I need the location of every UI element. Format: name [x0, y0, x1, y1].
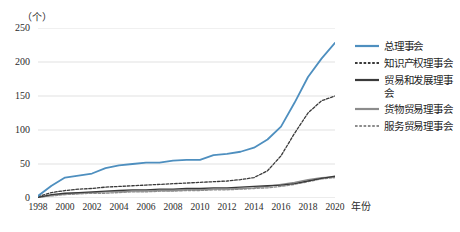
legend-item[interactable]: 贸易和发展理事会 [355, 74, 460, 100]
clipped-caption [0, 0, 460, 6]
legend-swatch-icon [355, 60, 379, 71]
chart-legend: 总理事会知识产权理事会贸易和发展理事会货物贸易理事会服务贸易理事会 [355, 40, 460, 137]
legend-item[interactable]: 货物贸易理事会 [355, 103, 460, 117]
y-axis-tick: 100 [0, 125, 30, 135]
legend-label: 服务贸易理事会 [384, 120, 453, 133]
legend-label: 货物贸易理事会 [384, 103, 453, 116]
x-axis-tick: 2020 [318, 202, 352, 212]
series-line [38, 43, 335, 196]
legend-label: 知识产权理事会 [384, 57, 453, 70]
legend-item[interactable]: 总理事会 [355, 40, 460, 54]
legend-swatch-icon [355, 77, 379, 88]
y-axis-tick: 50 [0, 159, 30, 169]
y-axis-tick: 150 [0, 91, 30, 101]
series-line [38, 178, 335, 198]
plot-area [38, 28, 335, 198]
legend-swatch-icon [355, 106, 379, 117]
y-axis-tick: 250 [0, 23, 30, 33]
y-axis-tick: 200 [0, 57, 30, 67]
line-chart: （个） 050100150200250 19982000200220042006… [0, 0, 460, 232]
legend-swatch-icon [355, 43, 379, 54]
legend-item[interactable]: 服务贸易理事会 [355, 120, 460, 134]
x-axis-title: 年份 [351, 201, 371, 212]
legend-label: 总理事会 [384, 40, 423, 53]
legend-item[interactable]: 知识产权理事会 [355, 57, 460, 71]
legend-label: 贸易和发展理事会 [384, 74, 460, 100]
plot-svg [38, 28, 335, 198]
legend-swatch-icon [355, 123, 379, 134]
